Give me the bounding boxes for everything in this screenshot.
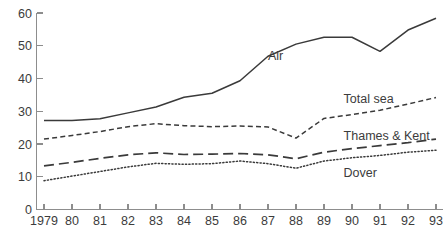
x-axis-group: 19798081828384858687888990919293 <box>30 204 443 229</box>
x-tick-label-1980: 80 <box>65 214 79 228</box>
series-label-thames-kent: Thames & Kent <box>344 129 431 143</box>
y-axis-group: 0102030405060 <box>18 7 43 218</box>
y-tick-label-10: 10 <box>18 170 32 184</box>
series-line-thames-kent <box>44 139 436 166</box>
x-axis-tick-labels: 19798081828384858687888990919293 <box>30 214 443 228</box>
y-tick-label-40: 40 <box>18 72 32 86</box>
series-label-dover: Dover <box>344 166 377 180</box>
x-tick-label-1988: 88 <box>289 214 303 228</box>
x-tick-label-1987: 87 <box>261 214 275 228</box>
x-tick-label-1982: 82 <box>121 214 135 228</box>
series-label-air: Air <box>268 49 283 63</box>
x-tick-label-1985: 85 <box>205 214 219 228</box>
x-tick-label-1984: 84 <box>177 214 191 228</box>
chart-canvas: 0102030405060 19798081828384858687888990… <box>0 0 445 240</box>
y-tick-label-30: 30 <box>18 105 32 119</box>
x-tick-label-1989: 89 <box>317 214 331 228</box>
series-line-dover <box>44 150 436 180</box>
x-tick-label-1991: 91 <box>373 214 387 228</box>
x-tick-label-1983: 83 <box>149 214 163 228</box>
y-tick-label-50: 50 <box>18 39 32 53</box>
series-label-total-sea: Total sea <box>344 92 394 106</box>
x-tick-label-1990: 90 <box>345 214 359 228</box>
x-tick-label-1986: 86 <box>233 214 247 228</box>
x-tick-label-1993: 93 <box>429 214 443 228</box>
x-tick-label-1979: 1979 <box>30 214 58 228</box>
y-axis-ticks <box>37 13 44 210</box>
y-tick-label-60: 60 <box>18 7 32 21</box>
x-tick-label-1992: 92 <box>401 214 415 228</box>
x-tick-label-1981: 81 <box>93 214 107 228</box>
y-axis-tick-labels: 0102030405060 <box>18 7 32 218</box>
x-axis-ticks <box>44 204 436 210</box>
y-tick-label-20: 20 <box>18 138 32 152</box>
line-chart: 0102030405060 19798081828384858687888990… <box>0 0 445 240</box>
